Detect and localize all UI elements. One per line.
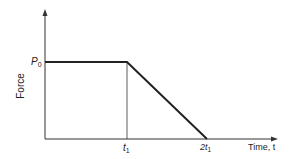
p0-label: P0 [31, 56, 42, 68]
2t1-label: 2t1 [199, 142, 212, 153]
y-axis-label: Force [15, 73, 26, 99]
force-curve [45, 62, 207, 139]
x-axis-arrow-icon [271, 137, 278, 142]
force-time-diagram: Force P0 t1 2t1 Time, t [0, 0, 292, 159]
x-axis-label: Time, t [248, 142, 276, 152]
t1-label: t1 [123, 142, 130, 154]
y-axis-arrow-icon [43, 9, 48, 16]
